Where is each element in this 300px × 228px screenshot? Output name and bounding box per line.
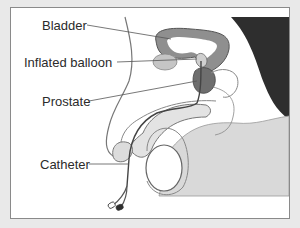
label-catheter: Catheter bbox=[40, 158, 90, 171]
body-outline bbox=[106, 17, 132, 156]
label-prostate: Prostate bbox=[42, 95, 90, 108]
anatomy-illustration bbox=[11, 8, 289, 218]
seminal-vesicle bbox=[153, 54, 177, 70]
prostate-shape bbox=[193, 68, 215, 94]
catheter-branch-1 bbox=[113, 186, 127, 205]
catheter-port-1 bbox=[107, 201, 116, 209]
label-inflated-balloon: Inflated balloon bbox=[24, 56, 112, 69]
dark-region bbox=[231, 17, 289, 119]
testicle bbox=[146, 145, 182, 191]
catheter-port-2 bbox=[115, 204, 123, 211]
leader-prostate bbox=[89, 81, 197, 101]
diagram-panel: Bladder Inflated balloon Prostate Cathet… bbox=[10, 7, 290, 219]
label-bladder: Bladder bbox=[42, 19, 87, 32]
